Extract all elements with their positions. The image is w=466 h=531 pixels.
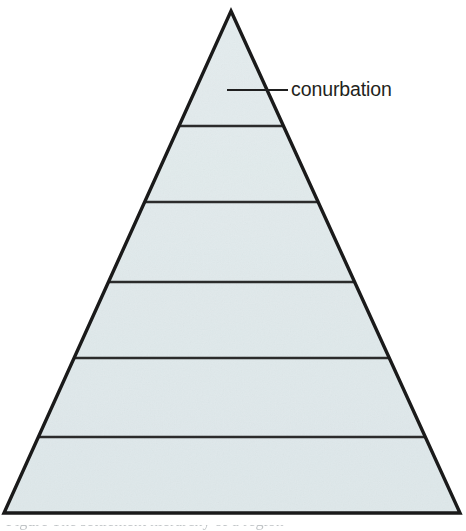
cropped-caption-strip: Figure The settlement hierarchy of a reg… [0,525,466,531]
paper-texture [0,0,466,531]
pyramid-diagram [0,0,466,531]
cropped-caption-text: Figure The settlement hierarchy of a reg… [6,525,284,529]
figure-root: conurbation Figure The settlement hierar… [0,0,466,531]
pyramid-body [0,0,466,531]
